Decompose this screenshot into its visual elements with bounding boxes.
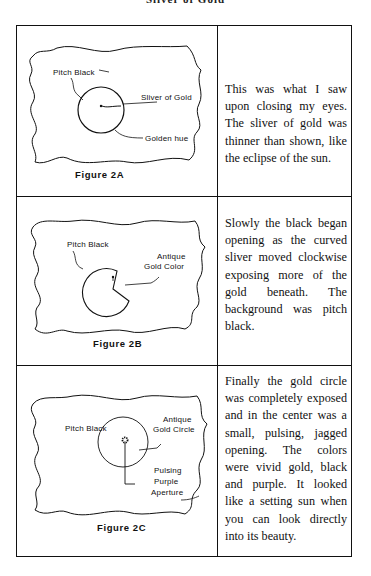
sliver-of-gold-mark bbox=[102, 106, 121, 107]
label-gold-color: Gold Color bbox=[144, 262, 184, 271]
figure-2a-cell: Pitch Black Sliver of Gold Golden hue Fi… bbox=[17, 26, 217, 196]
label-golden-hue: Golden hue bbox=[145, 134, 189, 143]
description-text: Slowly the black began opening as the cu… bbox=[225, 215, 347, 335]
label-pitch-black: Pitch Black bbox=[65, 424, 108, 433]
label-pitch-black: Pitch Black bbox=[53, 68, 96, 77]
description-text: Finally the gold circle was completely e… bbox=[225, 373, 347, 545]
pitch-black-background-outline bbox=[31, 220, 205, 333]
label-antique: Antique bbox=[157, 252, 186, 261]
label-antique: Antique bbox=[163, 415, 192, 424]
purple-aperture-icon bbox=[122, 437, 127, 442]
label-sliver-of-gold: Sliver of Gold bbox=[141, 93, 192, 102]
figure-caption: Figure 2A bbox=[75, 169, 124, 180]
figure-caption: Figure 2B bbox=[93, 338, 142, 349]
label-pitch-black: Pitch Black bbox=[67, 240, 110, 249]
label-pulsing: Pulsing bbox=[154, 466, 182, 475]
label-aperture: Aperture bbox=[151, 488, 184, 497]
figure-table: Pitch Black Sliver of Gold Golden hue Fi… bbox=[16, 25, 352, 557]
running-head: Sliver of Gold bbox=[0, 0, 371, 5]
pitch-black-background-outline bbox=[29, 46, 201, 163]
antique-gold-pie-circle bbox=[83, 269, 129, 317]
figure-caption: Figure 2C bbox=[97, 522, 146, 533]
figure-2b-cell: Pitch Black Antique Gold Color Figure 2B bbox=[17, 197, 217, 365]
description-text: This was what I saw upon closing my eyes… bbox=[225, 81, 347, 167]
column-divider bbox=[217, 26, 218, 556]
label-gold-circle: Gold Circle bbox=[153, 425, 195, 434]
golden-hue-circle bbox=[78, 87, 124, 133]
label-purple: Purple bbox=[154, 477, 179, 486]
figure-2c-cell: Pitch Black Antique Gold Circle Pulsing … bbox=[17, 366, 217, 557]
